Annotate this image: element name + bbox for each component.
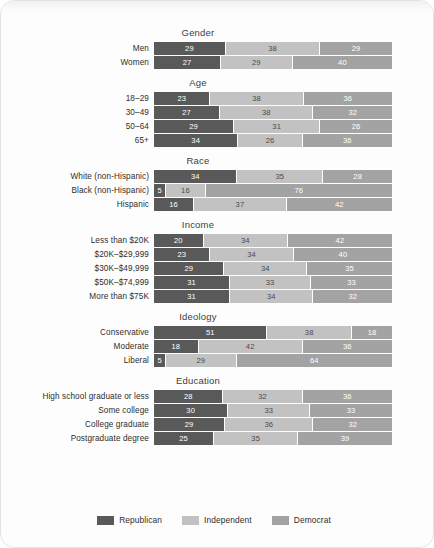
- segment-value: 39: [341, 435, 350, 443]
- stacked-bar: 342636: [154, 134, 392, 147]
- group-title: Ideology: [1, 311, 434, 322]
- bar-segment-democrat: 36: [303, 340, 392, 353]
- bar-segment-democrat: 32: [313, 106, 392, 119]
- paper-top-shading: [1, 1, 433, 15]
- bar-segment-independent: 34: [224, 262, 307, 275]
- bar-segment-democrat: 28: [323, 170, 392, 183]
- bar-segment-republican: 31: [154, 290, 230, 303]
- row-label: Liberal: [1, 356, 154, 365]
- bar-segment-independent: 34: [210, 248, 293, 261]
- bar-segment-republican: 34: [154, 134, 238, 147]
- segment-value: 28: [353, 173, 362, 181]
- bar-segment-democrat: 32: [313, 290, 392, 303]
- row-label: Black (non-Hispanic): [1, 186, 154, 195]
- row-label: $50K–$74,999: [1, 278, 154, 287]
- stacked-bar: 283236: [154, 390, 392, 403]
- segment-value: 26: [352, 123, 361, 131]
- row-label: Moderate: [1, 342, 154, 351]
- group-title: Education: [1, 375, 434, 386]
- stacked-bar: 163742: [154, 198, 392, 211]
- scanned-page: GenderMen293829Women272940Age18–29233836…: [0, 0, 434, 548]
- row-label: 30–49: [1, 108, 154, 117]
- chart-row: 18–29233836: [1, 92, 434, 105]
- row-label: Postgraduate degree: [1, 434, 154, 443]
- segment-value: 18: [171, 343, 180, 351]
- segment-value: 38: [252, 95, 261, 103]
- stacked-bar: 293126: [154, 120, 392, 133]
- chart-group-income: IncomeLess than $20K203442$20K–$29,99923…: [1, 219, 434, 303]
- segment-value: 33: [347, 279, 356, 287]
- segment-value: 20: [174, 237, 183, 245]
- bar-segment-independent: 32: [223, 390, 302, 403]
- segment-value: 33: [264, 407, 273, 415]
- chart-row: Women272940: [1, 56, 434, 69]
- segment-value: 33: [266, 279, 275, 287]
- stacked-bar: 293435: [154, 262, 392, 275]
- segment-value: 23: [177, 95, 186, 103]
- stacked-bar: 293632: [154, 418, 392, 431]
- group-rows: 18–2923383630–4927383250–6429312665+3426…: [1, 92, 434, 147]
- bar-segment-independent: 29: [221, 56, 293, 69]
- row-label: Hispanic: [1, 200, 154, 209]
- chart-row: Hispanic163742: [1, 198, 434, 211]
- bar-segment-republican: 31: [154, 276, 230, 289]
- bar-segment-independent: 26: [238, 134, 302, 147]
- segment-value: 36: [343, 137, 352, 145]
- stacked-bar: 233836: [154, 92, 392, 105]
- segment-value: 35: [276, 173, 285, 181]
- bar-segment-independent: 37: [194, 198, 287, 211]
- segment-value: 23: [177, 251, 186, 259]
- row-label: Women: [1, 58, 154, 67]
- bar-segment-republican: 5: [154, 354, 166, 367]
- stacked-bar: 293829: [154, 42, 392, 55]
- segment-value: 42: [336, 237, 345, 245]
- group-title: Gender: [1, 27, 434, 38]
- bar-segment-republican: 28: [154, 390, 223, 403]
- stacked-bar: 273832: [154, 106, 392, 119]
- segment-value: 29: [352, 45, 361, 53]
- stacked-bar: 51676: [154, 184, 392, 197]
- chart-row: White (non-Hispanic)343528: [1, 170, 434, 183]
- bar-segment-independent: 29: [166, 354, 236, 367]
- bar-segment-democrat: 29: [320, 42, 392, 55]
- segment-value: 34: [247, 251, 256, 259]
- segment-value: 38: [305, 329, 314, 337]
- bar-segment-independent: 35: [214, 432, 298, 445]
- chart-group-education: EducationHigh school graduate or less283…: [1, 375, 434, 445]
- chart-row: Men293829: [1, 42, 434, 55]
- bar-segment-democrat: 42: [287, 198, 392, 211]
- segment-value: 38: [268, 45, 277, 53]
- row-label: Men: [1, 44, 154, 53]
- bar-segment-independent: 38: [220, 106, 313, 119]
- segment-value: 34: [241, 237, 250, 245]
- group-rows: White (non-Hispanic)343528Black (non-His…: [1, 170, 434, 211]
- chart-row: Moderate184236: [1, 340, 434, 353]
- segment-value: 64: [310, 357, 319, 365]
- bar-segment-republican: 27: [154, 56, 221, 69]
- bar-segment-democrat: 76: [206, 184, 392, 197]
- chart-row: $50K–$74,999313333: [1, 276, 434, 289]
- segment-value: 28: [184, 393, 193, 401]
- bar-segment-independent: 38: [267, 326, 352, 339]
- bar-segment-democrat: 33: [310, 404, 392, 417]
- group-title: Income: [1, 219, 434, 230]
- segment-value: 34: [191, 137, 200, 145]
- segment-value: 34: [191, 173, 200, 181]
- legend-swatch-democrat: [272, 516, 289, 525]
- stacked-bar-chart: GenderMen293829Women272940Age18–29233836…: [1, 19, 434, 447]
- row-label: 50–64: [1, 122, 154, 131]
- segment-value: 32: [348, 293, 357, 301]
- segment-value: 29: [184, 265, 193, 273]
- stacked-bar: 52964: [154, 354, 392, 367]
- segment-value: 18: [368, 329, 377, 337]
- legend-item-independent: Independent: [182, 515, 252, 525]
- chart-row: $30K–$49,999293435: [1, 262, 434, 275]
- group-rows: High school graduate or less283236Some c…: [1, 390, 434, 445]
- legend-swatch-independent: [182, 516, 199, 525]
- segment-value: 51: [206, 329, 215, 337]
- bar-segment-republican: 34: [154, 170, 237, 183]
- chart-group-gender: GenderMen293829Women272940: [1, 27, 434, 69]
- segment-value: 31: [187, 279, 196, 287]
- bar-segment-republican: 20: [154, 234, 204, 247]
- stacked-bar: 203442: [154, 234, 392, 247]
